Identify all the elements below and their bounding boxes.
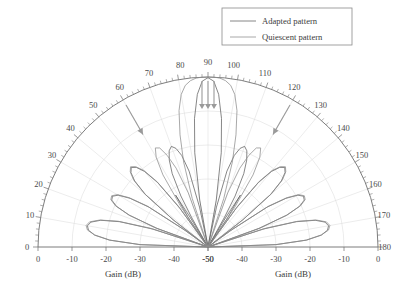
angle-label-40: 40: [66, 123, 75, 133]
angle-tick-16: [42, 199, 45, 200]
angle-label-70: 70: [145, 68, 154, 78]
angle-tick-100: [238, 75, 239, 80]
radial-label-right-3: -20: [304, 254, 315, 264]
angle-label-100: 100: [227, 60, 240, 70]
angle-label-10: 10: [26, 210, 35, 220]
angle-tick-28: [55, 166, 58, 167]
angle-tick-122: [298, 100, 300, 103]
angle-tick-126: [308, 107, 310, 109]
angle-tick-148: [352, 155, 355, 157]
angle-tick-130: [317, 113, 320, 117]
angle-tick-66: [138, 89, 139, 92]
angle-tick-14: [40, 205, 43, 206]
radial-label-right-5: 0: [376, 254, 380, 264]
angle-label-150: 150: [355, 150, 368, 160]
angle-tick-26: [53, 171, 56, 172]
null-arrow-90-center-head: [205, 104, 211, 109]
null-arrow-90-right-head: [211, 104, 217, 109]
angle-tick-152: [358, 166, 361, 167]
angle-tick-110: [266, 83, 268, 88]
angle-label-30: 30: [48, 150, 57, 160]
angle-tick-146: [349, 150, 351, 152]
angle-tick-22: [48, 182, 51, 183]
angle-tick-20: [44, 187, 49, 189]
radial-label-right-4: -10: [338, 254, 349, 264]
angle-tick-58: [116, 100, 118, 103]
angle-tick-64: [132, 92, 133, 95]
angle-tick-156: [363, 177, 366, 178]
radial-label-left-2: -20: [100, 254, 111, 264]
angle-tick-42: [79, 131, 81, 133]
angle-tick-116: [283, 92, 284, 95]
angle-tick-30: [56, 160, 60, 163]
angle-tick-154: [361, 171, 364, 172]
angle-tick-142: [342, 140, 344, 142]
angle-label-170: 170: [377, 210, 390, 220]
angle-tick-166: [373, 205, 376, 206]
angle-tick-62: [127, 94, 128, 97]
angle-tick-24: [50, 177, 53, 178]
radial-label-left-4: -40: [168, 254, 179, 264]
angle-label-120: 120: [288, 82, 301, 92]
angle-label-110: 110: [259, 68, 271, 78]
angle-tick-36: [68, 145, 70, 147]
angle-tick-12: [39, 211, 42, 212]
null-arrow-90-left-head: [199, 104, 205, 109]
polar-radiation-pattern-chart: 0102030405060708090100110120130140150160…: [0, 0, 415, 296]
angle-tick-46: [88, 123, 90, 125]
angle-tick-72: [155, 82, 156, 85]
angle-tick-136: [330, 127, 332, 129]
angle-tick-18: [43, 194, 46, 195]
angle-tick-106: [255, 81, 256, 84]
angle-tick-48: [92, 118, 94, 120]
angle-tick-52: [101, 111, 103, 113]
legend-label-0: Adapted pattern: [262, 16, 318, 26]
radial-axes: 0-10-20-30-40-50-50-40-30-20-100Gain (dB…: [36, 247, 380, 279]
angle-tick-54: [106, 107, 108, 109]
angle-tick-128: [313, 111, 315, 113]
angle-tick-78: [172, 78, 173, 81]
gain-axis-title-left: Gain (dB): [105, 269, 141, 279]
angle-tick-158: [366, 182, 369, 183]
angle-label-50: 50: [89, 100, 98, 110]
angle-tick-44: [84, 127, 86, 129]
angle-tick-140: [338, 135, 342, 138]
angle-label-130: 130: [314, 100, 327, 110]
angle-label-80: 80: [176, 60, 185, 70]
angle-tick-124: [303, 104, 305, 106]
angle-label-140: 140: [337, 123, 350, 133]
radial-label-right-0: -50: [202, 254, 213, 264]
radial-label-right-2: -30: [270, 254, 281, 264]
legend: Adapted patternQuiescent pattern: [222, 8, 352, 45]
radial-label-right-1: -40: [236, 254, 247, 264]
angle-tick-50: [96, 113, 99, 117]
angle-tick-56: [111, 104, 113, 106]
gain-axis-title-right: Gain (dB): [275, 269, 311, 279]
angle-tick-68: [143, 87, 144, 90]
angle-tick-132: [322, 118, 324, 120]
angle-tick-32: [61, 155, 64, 157]
angle-tick-80: [178, 75, 179, 80]
angle-tick-118: [288, 94, 289, 97]
legend-label-1: Quiescent pattern: [262, 32, 323, 42]
angle-tick-60: [121, 95, 124, 99]
angle-tick-40: [74, 135, 78, 138]
angle-label-90: 90: [204, 57, 213, 67]
angle-label-20: 20: [34, 179, 43, 189]
angle-tick-70: [148, 83, 150, 88]
angle-tick-76: [166, 79, 167, 82]
grid-ray-130deg: [208, 117, 317, 247]
angle-tick-104: [249, 79, 250, 82]
radial-label-left-3: -30: [134, 254, 145, 264]
angle-label-180: 180: [378, 242, 391, 252]
angle-label-0: 0: [25, 242, 29, 252]
angle-label-60: 60: [116, 82, 125, 92]
angle-tick-120: [293, 95, 296, 99]
angle-tick-162: [370, 194, 373, 195]
angle-label-160: 160: [369, 179, 382, 189]
angle-tick-112: [272, 87, 273, 90]
angle-tick-38: [72, 140, 74, 142]
angle-tick-74: [160, 81, 161, 84]
angle-tick-164: [371, 199, 374, 200]
chart-canvas: 0102030405060708090100110120130140150160…: [0, 0, 415, 296]
